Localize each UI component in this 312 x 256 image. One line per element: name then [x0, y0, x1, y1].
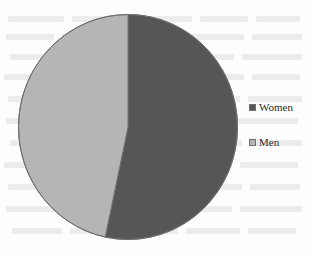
legend-swatch-men	[249, 139, 256, 146]
pie-chart-figure: Women Men	[0, 0, 312, 256]
legend-item-men[interactable]: Men	[249, 137, 309, 148]
legend-item-women[interactable]: Women	[249, 102, 309, 113]
legend-label-men: Men	[259, 137, 279, 148]
pie-plot-area	[18, 14, 238, 240]
pie-chart-svg	[18, 14, 238, 240]
legend-label-women: Women	[259, 102, 293, 113]
pie-slice-men[interactable]	[19, 15, 128, 238]
pie-slices	[19, 15, 238, 240]
chart-legend: Women Men	[249, 102, 309, 172]
legend-swatch-women	[249, 104, 256, 111]
